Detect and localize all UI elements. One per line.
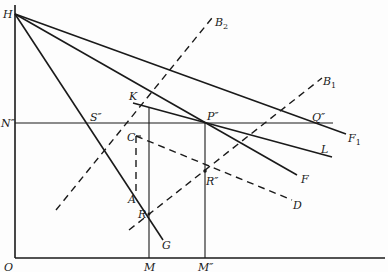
label-d: D bbox=[293, 200, 302, 211]
label-r2: R″ bbox=[206, 176, 218, 187]
label-b1: B1 bbox=[323, 76, 336, 90]
label-q2: Q″ bbox=[312, 112, 325, 123]
label-k: K bbox=[129, 91, 137, 102]
diagram-canvas: H O N″ S″ K P″ Q″ C A R R″ G F F1 L D B1… bbox=[0, 0, 388, 272]
point-r2 bbox=[203, 169, 207, 173]
label-c: C bbox=[127, 132, 135, 143]
label-g: G bbox=[162, 240, 171, 251]
label-m2: M″ bbox=[198, 262, 213, 272]
label-a: A bbox=[128, 194, 136, 205]
label-n2: N″ bbox=[1, 118, 15, 129]
label-p2: P″ bbox=[207, 111, 219, 122]
line-h-k-f bbox=[15, 14, 297, 175]
label-h: H bbox=[3, 9, 13, 20]
line-h-r-g bbox=[15, 14, 163, 240]
line-c-d bbox=[136, 136, 292, 200]
point-r bbox=[148, 213, 151, 216]
label-f: F bbox=[301, 174, 309, 185]
line-k-l bbox=[133, 103, 332, 157]
label-b2: B2 bbox=[215, 17, 228, 31]
label-r: R bbox=[138, 209, 146, 220]
label-l: L bbox=[321, 144, 328, 155]
label-o: O bbox=[4, 262, 13, 272]
diagram-lines bbox=[0, 0, 388, 272]
label-s2: S″ bbox=[90, 112, 102, 123]
label-f1: F1 bbox=[348, 133, 361, 147]
label-m: M bbox=[144, 262, 155, 272]
